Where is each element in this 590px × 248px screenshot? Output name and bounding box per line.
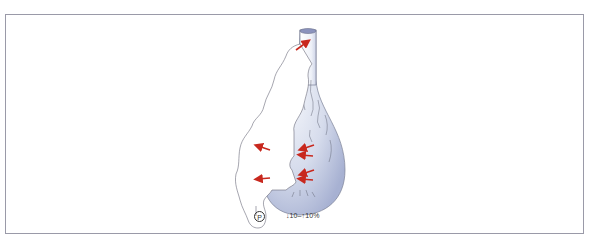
arrow-in-2 [301,155,313,156]
arrow-out-2 [258,178,270,179]
anatomical-diagram [0,0,590,248]
arrow-in-4 [301,179,313,180]
p-marker-label: P [254,211,265,222]
percentage-label: ↓10–↑10% [286,212,320,219]
